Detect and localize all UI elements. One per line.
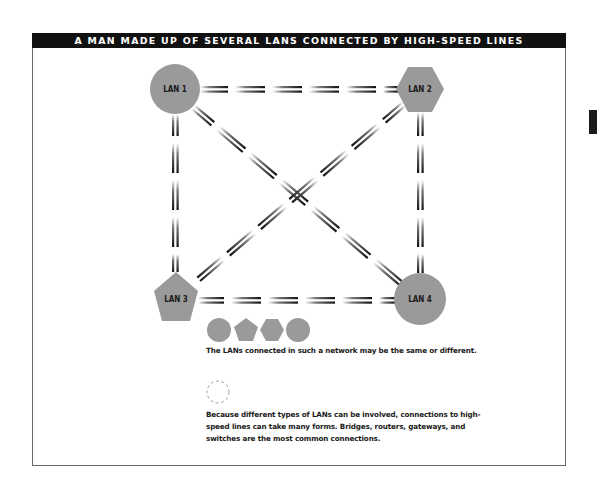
legend-pentagon-icon [234, 318, 258, 341]
legend-circle-icon [286, 318, 310, 342]
line-lan1-lan2 [200, 86, 398, 93]
legend-shapes-caption: The LANs connected in such a network may… [206, 346, 477, 355]
node-label-lan3: LAN 3 [164, 295, 188, 304]
node-lan2: LAN 2 [396, 67, 444, 112]
node-lan3: LAN 3 [154, 272, 198, 321]
legend-connector-caption: Because different types of LANs can be i… [206, 409, 496, 445]
node-lan1: LAN 1 [150, 64, 200, 114]
legend-circle-icon [207, 318, 231, 342]
line-lan1-lan3 [172, 114, 179, 272]
node-label-lan2: LAN 2 [408, 85, 432, 94]
line-lan2-lan3 [197, 101, 407, 281]
dashed-circle-connector-icon [207, 381, 229, 403]
legend-shapes [207, 318, 310, 342]
node-label-lan1: LAN 1 [163, 85, 187, 94]
legend-hexagon-icon [260, 319, 284, 341]
node-label-lan4: LAN 4 [408, 295, 432, 304]
line-lan3-lan4 [198, 297, 395, 304]
node-lan4: LAN 4 [394, 273, 446, 325]
line-lan2-lan4 [417, 112, 424, 273]
